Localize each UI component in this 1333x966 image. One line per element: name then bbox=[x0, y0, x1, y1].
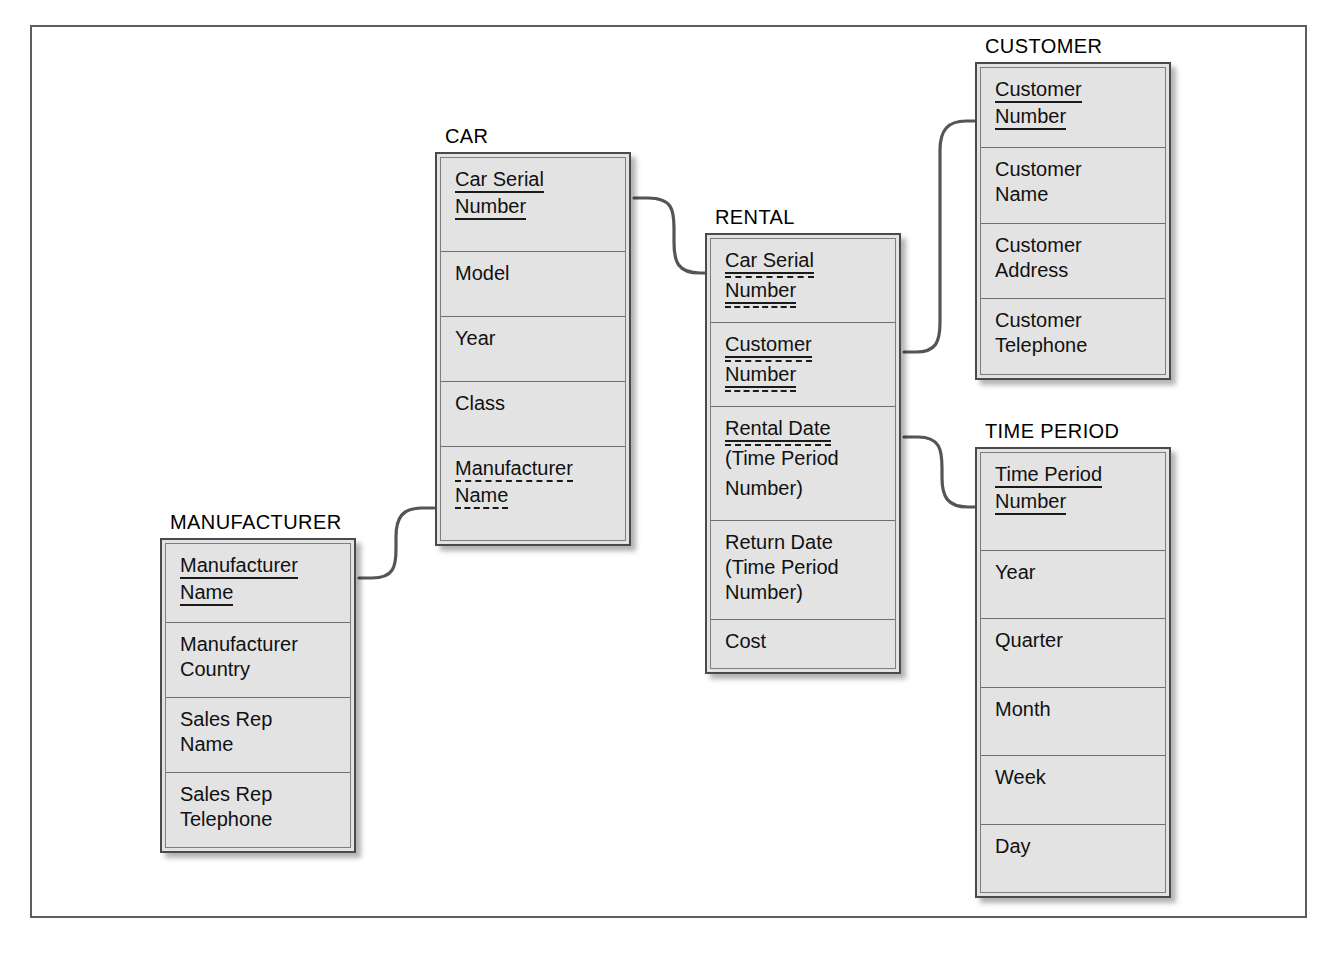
entity-title-time-period: TIME PERIOD bbox=[985, 421, 1119, 441]
entity-box-manufacturer: Manufacturer Name Manufacturer Country S… bbox=[160, 538, 356, 853]
attribute-row: Manufacturer Name bbox=[166, 544, 350, 623]
attribute-row: Customer Telephone bbox=[981, 299, 1165, 374]
attribute-row: Car Serial Number bbox=[711, 239, 895, 323]
attribute-row: Return Date (Time Period Number) bbox=[711, 521, 895, 620]
attribute-row: Sales Rep Name bbox=[166, 698, 350, 773]
entity-box-car: Car Serial Number Model Year Class Manuf… bbox=[435, 152, 631, 546]
attribute-row: Customer Number bbox=[981, 68, 1165, 148]
entity-title-customer: CUSTOMER bbox=[985, 36, 1102, 56]
entity-time-period[interactable]: TIME PERIOD Time Period Number Year Quar… bbox=[975, 447, 1171, 898]
er-diagram-canvas: CAR Car Serial Number Model Year Class bbox=[0, 0, 1333, 966]
entity-title-manufacturer: MANUFACTURER bbox=[170, 512, 341, 532]
attribute-row: Customer Number bbox=[711, 323, 895, 407]
attribute-row: Year bbox=[981, 551, 1165, 620]
attribute-row: Time Period Number bbox=[981, 453, 1165, 551]
attribute-row: Month bbox=[981, 688, 1165, 757]
attribute-row: Rental Date (Time Period Number) bbox=[711, 407, 895, 521]
attribute-row: Customer Address bbox=[981, 224, 1165, 300]
attribute-row: Car Serial Number bbox=[441, 158, 625, 252]
entity-box-time-period: Time Period Number Year Quarter Month We… bbox=[975, 447, 1171, 898]
attribute-row: Manufacturer Name bbox=[441, 447, 625, 540]
entity-title-rental: RENTAL bbox=[715, 207, 795, 227]
entity-customer[interactable]: CUSTOMER Customer Number Customer Name bbox=[975, 62, 1171, 380]
attribute-row: Sales Rep Telephone bbox=[166, 773, 350, 847]
attribute-row: Manufacturer Country bbox=[166, 623, 350, 698]
attribute-row: Customer Name bbox=[981, 148, 1165, 224]
entity-box-customer: Customer Number Customer Name Customer A… bbox=[975, 62, 1171, 380]
attribute-row: Model bbox=[441, 252, 625, 317]
entity-title-car: CAR bbox=[445, 126, 488, 146]
entity-manufacturer[interactable]: MANUFACTURER Manufacturer Name Manufactu… bbox=[160, 538, 356, 853]
attribute-row: Quarter bbox=[981, 619, 1165, 688]
attribute-row: Week bbox=[981, 756, 1165, 825]
entity-box-rental: Car Serial Number Customer Number Rental… bbox=[705, 233, 901, 674]
attribute-row: Cost bbox=[711, 620, 895, 668]
attribute-row: Year bbox=[441, 317, 625, 382]
entity-car[interactable]: CAR Car Serial Number Model Year Class bbox=[435, 152, 631, 546]
attribute-row: Day bbox=[981, 825, 1165, 893]
attribute-row: Class bbox=[441, 382, 625, 447]
entity-rental[interactable]: RENTAL Car Serial Number Customer Number bbox=[705, 233, 901, 674]
